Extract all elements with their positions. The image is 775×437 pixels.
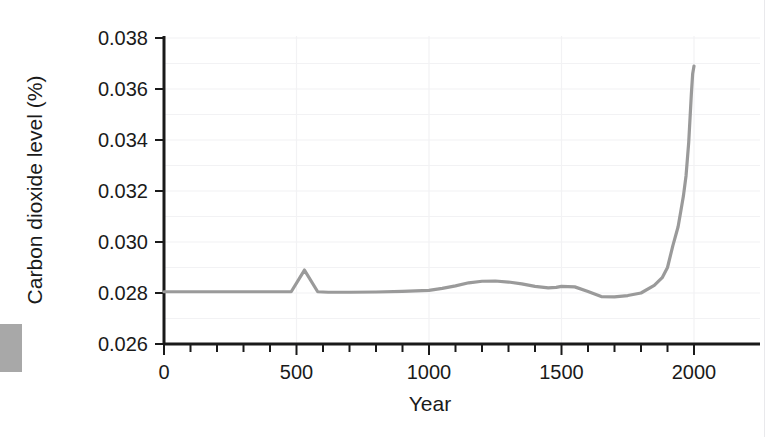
y-tick-label: 0.030 (98, 231, 148, 253)
x-tick-label: 0 (158, 361, 169, 383)
y-tick-label: 0.036 (98, 78, 148, 100)
scan-artifact-left-block (0, 324, 22, 372)
figure-container: 0.0260.0280.0300.0320.0340.0360.038 0500… (0, 0, 775, 437)
y-tick-label: 0.026 (98, 333, 148, 355)
x-tick-label: 500 (280, 361, 313, 383)
x-tick-label: 2000 (672, 361, 717, 383)
y-tick-label: 0.038 (98, 27, 148, 49)
x-tick-label: 1500 (539, 361, 584, 383)
y-tick-label: 0.034 (98, 129, 148, 151)
x-axis-title: Year (409, 392, 451, 415)
y-tick-label: 0.028 (98, 282, 148, 304)
chart-background (0, 0, 775, 437)
y-axis-title: Carbon dioxide level (%) (23, 76, 46, 305)
co2-line-chart: 0.0260.0280.0300.0320.0340.0360.038 0500… (0, 0, 775, 437)
x-tick-label: 1000 (407, 361, 452, 383)
y-tick-label: 0.032 (98, 180, 148, 202)
scan-artifact-right-edge (764, 0, 765, 437)
